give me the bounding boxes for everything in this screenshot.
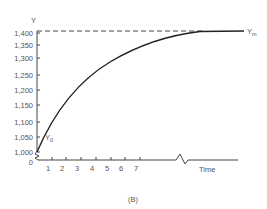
x-tick-label: 7 xyxy=(134,164,138,173)
y-tick-label: 1,000 xyxy=(14,148,33,157)
growth-curve-chart: 01,0001,0501,1001,1501,2001,2501,3001,35… xyxy=(0,0,267,209)
x-tick-label: 1 xyxy=(46,164,50,173)
y-tick-label: 1,250 xyxy=(14,71,33,80)
growth-curve xyxy=(37,31,244,152)
x-tick-label: 3 xyxy=(75,164,79,173)
y0-label: Y0 xyxy=(45,133,53,143)
y-ticks: 01,0001,0501,1001,1501,2001,2501,3001,35… xyxy=(14,29,40,167)
x-tick-label: 2 xyxy=(60,164,64,173)
y-tick-label: 1,300 xyxy=(14,54,33,63)
y-tick-label: 1,100 xyxy=(14,118,33,127)
x-tick-label: 5 xyxy=(105,164,109,173)
x-axis-label: Time xyxy=(199,165,215,174)
figure-label: (B) xyxy=(128,195,139,204)
ym-label: Ym xyxy=(247,27,257,37)
y-tick-label: 1,350 xyxy=(14,41,33,50)
y-tick-label: 1,150 xyxy=(14,101,33,110)
y-tick-label: 1,200 xyxy=(14,86,33,95)
x-tick-label: 4 xyxy=(90,164,94,173)
x-tick-label: 6 xyxy=(119,164,123,173)
y-axis-label: Y xyxy=(31,16,36,25)
x-axis-break xyxy=(176,154,188,164)
y-tick-label: 1,050 xyxy=(14,133,33,142)
y-tick-label: 1,400 xyxy=(14,29,33,38)
y-tick-label: 0 xyxy=(29,158,33,167)
x-ticks: 1234567 xyxy=(46,157,140,173)
